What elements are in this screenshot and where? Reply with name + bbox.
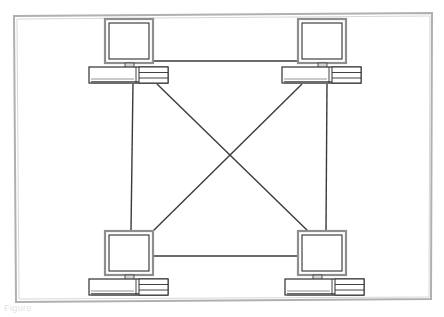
tower-drive-bay-panel: [139, 67, 168, 83]
diagram-background: [0, 0, 444, 317]
diagram-page: Figure: [0, 0, 444, 317]
monitor-screen: [302, 23, 342, 59]
figure-caption: Figure: [4, 303, 32, 313]
tower-drive-bay-panel: [335, 279, 364, 295]
tower-drive-bay-panel: [332, 67, 361, 83]
network-topology-diagram: [0, 0, 444, 317]
monitor-screen: [109, 23, 149, 59]
tower-drive-bay-panel: [139, 279, 168, 295]
monitor-screen: [109, 235, 149, 271]
link-right: [326, 82, 327, 231]
monitor-screen: [302, 235, 342, 271]
